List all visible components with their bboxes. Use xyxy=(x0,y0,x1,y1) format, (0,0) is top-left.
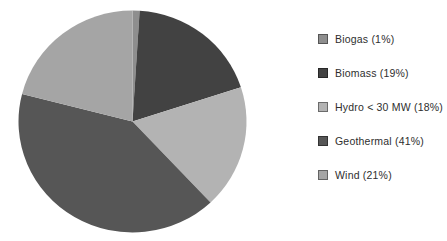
legend-swatch-biogas xyxy=(318,34,328,44)
legend-label-geothermal: Geothermal (41%) xyxy=(335,136,424,146)
legend-swatch-wind xyxy=(318,170,328,180)
legend-swatch-biomass xyxy=(318,68,328,78)
chart-canvas: Biogas (1%) Biomass (19%) Hydro < 30 MW … xyxy=(0,0,447,241)
legend-label-hydro: Hydro < 30 MW (18%) xyxy=(335,102,443,112)
legend-item-geothermal: Geothermal (41%) xyxy=(318,136,444,146)
legend-label-biogas: Biogas (1%) xyxy=(335,34,394,44)
legend-label-biomass: Biomass (19%) xyxy=(335,68,409,78)
legend: Biogas (1%) Biomass (19%) Hydro < 30 MW … xyxy=(318,34,444,204)
legend-item-biogas: Biogas (1%) xyxy=(318,34,444,44)
legend-label-wind: Wind (21%) xyxy=(335,170,392,180)
legend-item-biomass: Biomass (19%) xyxy=(318,68,444,78)
legend-swatch-hydro xyxy=(318,102,328,112)
legend-item-wind: Wind (21%) xyxy=(318,170,444,180)
legend-swatch-geothermal xyxy=(318,136,328,146)
legend-item-hydro: Hydro < 30 MW (18%) xyxy=(318,102,444,112)
